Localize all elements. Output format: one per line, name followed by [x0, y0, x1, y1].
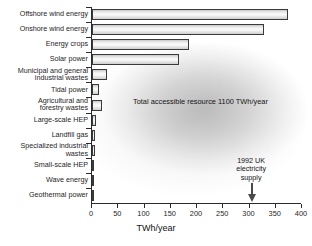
y-axis-tick [86, 67, 92, 68]
y-axis-label: Agricultural and forestry wastes [38, 97, 88, 112]
bar-large-scale-hep [92, 115, 96, 126]
arrow-head [248, 194, 256, 202]
y-axis-tick [86, 158, 92, 159]
x-axis-tick [249, 204, 250, 208]
y-axis-label: Specialized industrial wastes [20, 142, 88, 157]
y-axis-label: Wave energy [46, 176, 88, 184]
bar-chart: Offshore wind energyOnshore wind energyE… [0, 0, 312, 246]
bar-tidal-power [92, 84, 99, 95]
y-axis-label: Offshore wind energy [20, 10, 88, 18]
bar-offshore-wind-energy [92, 9, 288, 20]
bar-wave-energy [92, 175, 94, 186]
x-axis-tick [91, 204, 92, 208]
y-axis-label: Large-scale HEP [34, 116, 88, 124]
x-axis-title: TWh/year [0, 223, 312, 233]
y-axis-tick [86, 97, 92, 98]
y-axis-label: Tidal power [51, 86, 88, 94]
x-axis-tick [222, 204, 223, 208]
y-axis-label: Geothermal power [29, 191, 88, 199]
x-axis-tick [196, 204, 197, 208]
y-axis-tick [86, 173, 92, 174]
y-axis-tick [86, 128, 92, 129]
y-axis-tick [86, 37, 92, 38]
x-axis-tick-label: 400 [286, 209, 312, 218]
y-axis-label: Energy crops [46, 40, 88, 48]
bar-solar-power [92, 54, 179, 65]
bar-agricultural-and-forestry-wastes [92, 100, 102, 111]
x-axis-tick [170, 204, 171, 208]
bar-municipal-and-general-industrial-wastes [92, 69, 107, 80]
x-axis-tick [144, 204, 145, 208]
y-axis-tick [86, 143, 92, 144]
y-axis-tick [86, 113, 92, 114]
y-axis-tick [86, 82, 92, 83]
uk-supply-annotation: 1992 UK electricity supply [215, 157, 287, 182]
bar-specialized-industrial-wastes [92, 145, 95, 156]
y-axis-tick [86, 7, 92, 8]
bar-energy-crops [92, 39, 189, 50]
uk-supply-arrow-icon [249, 183, 250, 203]
y-axis-label: Onshore wind energy [20, 25, 88, 33]
total-resource-note: Total accessible resource 1100 TWh/year [133, 97, 268, 106]
plot-area: Offshore wind energyOnshore wind energyE… [0, 0, 312, 246]
x-axis-tick [117, 204, 118, 208]
uk-supply-line-3: supply [215, 174, 287, 182]
y-axis-label: Municipal and general industrial wastes [18, 67, 88, 82]
y-axis-label: Small-scale HEP [34, 161, 88, 169]
bar-geothermal-power [92, 190, 94, 201]
y-axis-tick [86, 22, 92, 23]
x-axis-tick [301, 204, 302, 208]
y-axis-label: Solar power [50, 55, 88, 63]
bar-landfill-gas [92, 130, 95, 141]
bar-onshore-wind-energy [92, 24, 264, 35]
x-axis-tick [275, 204, 276, 208]
y-axis-tick [86, 188, 92, 189]
y-axis-tick [86, 52, 92, 53]
bar-small-scale-hep [92, 160, 94, 171]
y-axis-label: Landfill gas [52, 131, 88, 139]
